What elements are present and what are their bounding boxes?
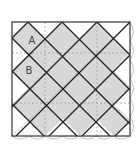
label-b: B — [26, 65, 33, 76]
tiling-diagram: A B — [0, 0, 140, 154]
label-a: A — [29, 35, 36, 46]
